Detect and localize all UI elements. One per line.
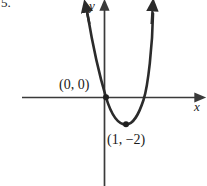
parabola-figure: 5. y x (0, 0) (1, −2) [0, 0, 207, 186]
graph-canvas [0, 0, 207, 186]
vertex-point-marker [123, 121, 129, 127]
origin-point-label: (0, 0) [59, 78, 89, 92]
parabola-path [88, 14, 154, 125]
origin-point-marker [103, 94, 109, 100]
problem-number: 5. [1, 0, 11, 9]
parabola-curve [87, 9, 154, 125]
parabola-right-arrow-icon [152, 9, 153, 24]
x-axis-label: x [194, 100, 200, 113]
vertex-point-label: (1, −2) [107, 133, 145, 147]
y-axis-label: y [89, 0, 95, 12]
